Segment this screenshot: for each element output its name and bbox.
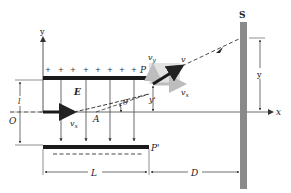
x-axis-arrow-icon: [268, 109, 274, 115]
screen-distance-label: D: [190, 168, 198, 178]
y-screen-label: y: [256, 70, 262, 79]
y-axis-arrow-icon: [40, 36, 46, 42]
screen: [240, 22, 247, 189]
field-label: E: [73, 87, 81, 97]
positive-charges: ++++ ++++: [45, 66, 137, 74]
y-prime-label: y': [148, 95, 156, 104]
svg-text:+: +: [107, 66, 113, 74]
bottom-plate: [43, 145, 149, 149]
y-axis-label: y: [39, 27, 45, 36]
angle-arc: [120, 104, 121, 112]
svg-text:+: +: [95, 66, 101, 74]
velocity-label: v: [181, 55, 186, 64]
svg-text:+: +: [58, 66, 64, 74]
plate-gap-label: l: [18, 97, 21, 106]
svg-text:+: +: [131, 66, 137, 74]
deflection-diagram: x y ++++ ++++ P P' E O vx A θ vy v vx y': [0, 0, 291, 193]
svg-text:+: +: [45, 66, 51, 74]
vy-label: vy: [148, 53, 157, 64]
beam-path: [182, 38, 241, 66]
plate-bottom-label: P': [150, 143, 160, 153]
plate-length-label: L: [90, 168, 97, 178]
plate-top-label: P: [139, 65, 147, 75]
top-plate: [43, 76, 149, 80]
screen-label: S: [239, 10, 246, 20]
point-a-label: A: [92, 114, 100, 124]
origin-label: O: [9, 116, 17, 126]
svg-text:+: +: [119, 66, 125, 74]
trajectory-curve: [74, 94, 149, 112]
x-axis-label: x: [276, 107, 281, 117]
angle-label: θ: [123, 98, 128, 107]
vx-exit-label: vx: [181, 88, 190, 98]
vx-initial-label: vx: [70, 119, 79, 129]
svg-text:+: +: [83, 66, 89, 74]
svg-text:+: +: [70, 66, 76, 74]
